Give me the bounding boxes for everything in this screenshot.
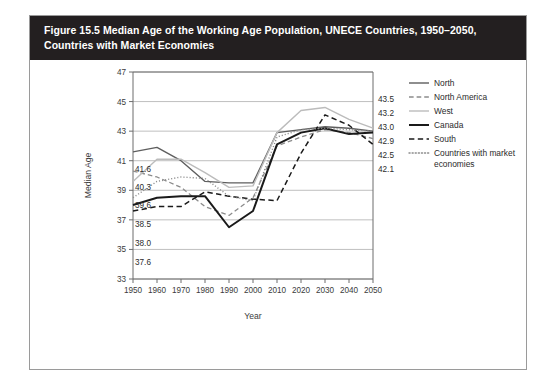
chart-plot-area: 3335373941434547195019601970198019902000… [30,60,526,360]
start-value-label: 37.6 [135,258,151,267]
x-tick-label: 2020 [292,286,311,295]
end-value-label: 42.9 [378,137,394,146]
x-tick-label: 1960 [148,286,167,295]
legend-label-north-america: North America [434,92,487,102]
y-tick-label: 35 [117,245,127,254]
series-line-west [133,107,373,187]
start-value-label: 39.6 [135,201,151,210]
legend-label-market-economies: Countries with market [434,148,516,158]
start-value-label: 38.5 [135,220,151,229]
x-tick-label: 1950 [124,286,143,295]
figure-title-bar: Figure 15.5 Median Age of the Working Ag… [30,16,526,60]
legend-label-south: South [434,134,456,144]
x-tick-label: 2030 [316,286,335,295]
end-value-label: 43.5 [378,95,394,104]
y-tick-label: 47 [117,68,127,77]
series-line-countries-with-market-economies [133,128,373,200]
y-tick-label: 33 [117,275,127,284]
end-value-label: 43.0 [378,123,394,132]
y-tick-label: 39 [117,186,127,195]
y-axis-title: Median Age [83,153,93,199]
x-tick-label: 2010 [268,286,287,295]
legend-label-north: North [434,78,455,88]
y-tick-label: 43 [117,127,127,136]
legend-label-market-economies-line2: economies [434,159,475,169]
x-tick-label: 2050 [364,286,383,295]
y-tick-label: 37 [117,216,127,225]
x-tick-label: 2040 [340,286,359,295]
start-value-label: 41.6 [135,165,151,174]
series-line-north [133,127,373,183]
legend-label-canada: Canada [434,120,464,130]
line-chart: 3335373941434547195019601970198019902000… [30,60,526,360]
y-tick-label: 41 [117,157,127,166]
x-axis-title: Year [244,311,262,321]
x-tick-label: 1980 [196,286,215,295]
y-tick-label: 45 [117,98,127,107]
figure-card: Figure 15.5 Median Age of the Working Ag… [29,15,527,370]
page-title: Figure 15.5 Median Age of the Working Ag… [44,23,514,52]
x-tick-label: 1970 [172,286,191,295]
x-tick-label: 2000 [244,286,263,295]
end-value-label: 42.5 [378,151,394,160]
x-tick-label: 1990 [220,286,239,295]
start-value-label: 40.3 [135,183,151,192]
legend-label-west: West [434,106,454,116]
end-value-label: 43.2 [378,109,394,118]
series-line-north-america [133,130,373,216]
start-value-label: 38.0 [135,239,151,248]
series-line-canada [133,128,373,227]
end-value-label: 42.1 [378,165,394,174]
